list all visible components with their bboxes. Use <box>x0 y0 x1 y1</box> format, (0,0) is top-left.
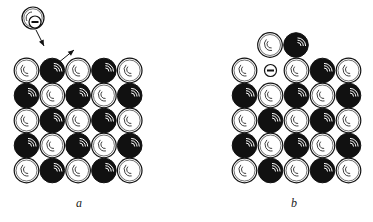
black-atom-icon <box>258 158 283 183</box>
white-atom-icon <box>258 133 283 158</box>
white-atom-icon <box>336 158 361 183</box>
black-atom-icon <box>284 33 309 58</box>
black-atom-icon <box>310 58 335 83</box>
black-atom-icon <box>232 133 257 158</box>
white-atom-icon <box>232 58 257 83</box>
black-atom-icon <box>284 133 309 158</box>
black-atom-icon <box>310 108 335 133</box>
white-atom-icon <box>284 158 309 183</box>
white-atom-icon <box>232 158 257 183</box>
white-atom-icon <box>284 108 309 133</box>
panel-label-b: b <box>291 196 297 211</box>
white-atom-icon <box>284 58 309 83</box>
black-atom-icon <box>258 108 283 133</box>
white-atom-icon <box>258 83 283 108</box>
white-atom-icon <box>232 108 257 133</box>
black-atom-icon <box>310 158 335 183</box>
panel-b: b <box>0 0 373 222</box>
black-atom-icon <box>284 83 309 108</box>
white-atom-icon <box>310 133 335 158</box>
white-atom-icon <box>336 58 361 83</box>
lattice-diagram-b <box>0 0 373 222</box>
white-atom-icon <box>258 33 283 58</box>
vacancy-negative-icon <box>265 65 277 77</box>
white-atom-icon <box>336 108 361 133</box>
white-atom-icon <box>310 83 335 108</box>
black-atom-icon <box>232 83 257 108</box>
black-atom-icon <box>336 83 361 108</box>
black-atom-icon <box>336 133 361 158</box>
